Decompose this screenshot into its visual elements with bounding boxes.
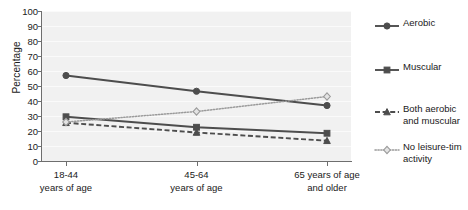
diamond-marker [324, 93, 331, 100]
line-chart-figure: Percentage 0102030405060708090100 Aerobi… [0, 0, 468, 210]
legend-label-line: Aerobic [403, 17, 468, 29]
x-tick-mark [66, 162, 67, 166]
y-tick-mark [38, 56, 42, 57]
circle-marker [193, 88, 199, 94]
y-tick-mark [38, 101, 42, 102]
circle-marker [324, 102, 330, 108]
legend-label: Both aerobicand muscular [403, 103, 468, 126]
legend-label-line: Muscular [403, 61, 468, 73]
circle-marker [63, 72, 69, 78]
circle-icon [374, 18, 400, 30]
legend-label: No leisure-timactivity [403, 141, 468, 164]
legend-label: Aerobic [403, 17, 468, 29]
x-tick-label-line: years of age [142, 182, 252, 195]
x-tick-label-line: 18-44 [11, 169, 121, 182]
legend-label-line: and muscular [403, 115, 468, 127]
y-tick-mark [38, 11, 42, 12]
x-tick-label-line: 65 years of age [272, 169, 382, 182]
x-tick-label-line: years of age [11, 182, 121, 195]
y-tick-mark [38, 131, 42, 132]
chart-legend: AerobicMuscularBoth aerobicand muscularN… [374, 0, 468, 210]
diamond-icon [374, 142, 400, 154]
legend-label-line: No leisure-tim [403, 141, 468, 153]
y-tick-mark [38, 71, 42, 72]
x-tick-label: 18-44years of age [11, 169, 121, 194]
y-tick-mark [38, 146, 42, 147]
x-tick-mark [327, 162, 328, 166]
x-tick-mark [197, 162, 198, 166]
diamond-marker [384, 146, 391, 153]
series-no-leisure-tim-activity [63, 93, 331, 126]
square-marker [384, 67, 390, 73]
legend-label-line: Both aerobic [403, 103, 468, 115]
series-aerobic [63, 72, 330, 108]
circle-marker [384, 23, 390, 29]
legend-label-line: activity [403, 153, 468, 165]
x-tick-label-line: and older [272, 182, 382, 195]
x-tick-label: 45-64years of age [142, 169, 252, 194]
x-tick-label: 65 years of ageand older [272, 169, 382, 194]
y-tick-mark [38, 161, 42, 162]
y-tick-mark [38, 86, 42, 87]
legend-label: Muscular [403, 61, 468, 73]
triangle-icon [374, 104, 400, 116]
y-tick-mark [38, 26, 42, 27]
y-tick-mark [38, 41, 42, 42]
diamond-marker [193, 108, 200, 115]
x-tick-label-line: 45-64 [142, 169, 252, 182]
square-marker [324, 130, 330, 136]
square-icon [374, 62, 400, 74]
y-tick-mark [38, 116, 42, 117]
